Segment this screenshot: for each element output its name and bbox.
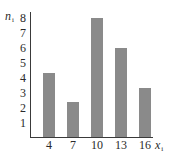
y-axis-label: ni <box>5 10 14 26</box>
y-tick-label: 1 <box>14 117 26 129</box>
x-axis-label-main: x <box>155 138 160 152</box>
bar-16 <box>139 88 151 137</box>
bar-7 <box>67 102 79 137</box>
bar-chart: ni 12345678 47101316 xi <box>0 0 172 156</box>
y-tick-label: 5 <box>14 57 26 69</box>
y-tick-label: 2 <box>14 102 26 114</box>
bar-10 <box>91 18 103 137</box>
x-axis-label-sub: i <box>161 145 163 153</box>
y-tick-label: 6 <box>14 42 26 54</box>
x-tick-label: 16 <box>135 139 155 151</box>
x-tick-label: 10 <box>87 139 107 151</box>
y-tick-label: 7 <box>14 27 26 39</box>
y-tick-label: 4 <box>14 72 26 84</box>
y-axis-label-main: n <box>5 9 11 23</box>
y-tick-label: 3 <box>14 87 26 99</box>
bar-4 <box>43 73 55 137</box>
bar-13 <box>115 48 127 137</box>
x-tick-label: 13 <box>111 139 131 151</box>
x-tick-label: 4 <box>39 139 59 151</box>
x-axis-label: xi <box>155 139 163 155</box>
y-tick-label: 8 <box>14 12 26 24</box>
y-axis-line <box>30 12 31 138</box>
x-tick-label: 7 <box>63 139 83 151</box>
